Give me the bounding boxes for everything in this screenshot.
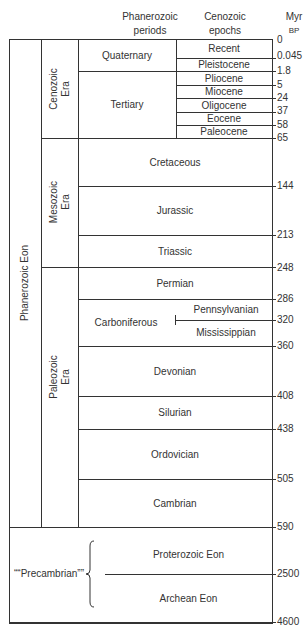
tick-label: 286	[277, 293, 294, 305]
eon-proterozoic: Proterozoic Eon	[105, 540, 272, 568]
period-tertiary: Tertiary	[78, 71, 176, 138]
era-paleozoic-line2: Era	[60, 337, 72, 417]
header-units-line1: Myr	[282, 10, 306, 24]
tick-label: 24	[277, 92, 288, 104]
epoch-pleistocene: Pleistocene	[176, 58, 272, 71]
tick-label: 320	[277, 314, 294, 326]
era-mesozoic-line1: Mesozoic	[48, 162, 60, 242]
tick-label: 1.8	[277, 65, 291, 77]
subperiod-pennsylvanian: Pennsylvanian	[180, 301, 272, 318]
era-mesozoic-line2: Era	[60, 162, 72, 242]
epoch-pliocene: Pliocene	[176, 71, 272, 85]
era-cenozoic: Cenozoic Era	[48, 49, 72, 129]
era-cenozoic-line1: Cenozoic	[48, 49, 60, 129]
header-epochs-line1: Cenozoic	[176, 10, 274, 24]
line-320	[175, 320, 276, 321]
line-4600	[9, 622, 276, 623]
tick-label: 408	[277, 390, 294, 402]
period-cretaceous: Cretaceous	[78, 138, 272, 186]
line-2500	[105, 574, 276, 575]
line-590	[9, 527, 276, 528]
tick-label: 58	[277, 119, 288, 131]
tick-label: 144	[277, 180, 294, 192]
tick-label: 4600	[277, 616, 299, 628]
carboniferous-tick	[175, 315, 176, 325]
eon-column-divider	[41, 39, 42, 527]
eon-phanerozoic: Phanerozoic Eon	[19, 233, 31, 333]
epoch-oligocene: Oligocene	[176, 98, 272, 112]
tick-label: 5	[277, 79, 283, 91]
epoch-eocene: Eocene	[176, 112, 272, 125]
tick-label: 65	[277, 132, 288, 144]
era-mesozoic: Mesozoic Era	[48, 162, 72, 242]
period-carboniferous: Carboniferous	[78, 299, 174, 346]
period-triassic: Triassic	[78, 235, 272, 267]
epoch-recent: Recent	[176, 39, 272, 58]
tick-label: 2500	[277, 568, 299, 580]
era-paleozoic: Paleozoic Era	[48, 337, 72, 417]
tick-label: 0.045	[277, 50, 302, 62]
time-axis	[272, 39, 273, 623]
period-jurassic: Jurassic	[78, 186, 272, 235]
tick-label: 360	[277, 340, 294, 352]
header-units-line2: BP	[282, 24, 306, 38]
epoch-miocene: Miocene	[176, 85, 272, 98]
period-devonian: Devonian	[78, 346, 272, 396]
brace-icon	[82, 540, 96, 608]
era-paleozoic-line1: Paleozoic	[48, 337, 60, 417]
epoch-paleocene: Paleocene	[176, 125, 272, 138]
eon-precambrian: ““Precambrian””	[14, 567, 84, 581]
eon-archean: Archean Eon	[105, 584, 272, 612]
tick-label: 0	[277, 34, 283, 46]
period-permian: Permian	[78, 267, 272, 299]
tick-label: 37	[277, 105, 288, 117]
period-cambrian: Cambrian	[78, 479, 272, 527]
tick-label: 438	[277, 423, 294, 435]
period-silurian: Silurian	[78, 396, 272, 429]
tick-label: 248	[277, 262, 294, 274]
header-units: Myr BP	[282, 10, 306, 38]
tick-label: 505	[277, 473, 294, 485]
period-ordovician: Ordovician	[78, 429, 272, 479]
header-epochs: Cenozoic epochs	[176, 10, 274, 38]
tick-label: 213	[277, 229, 294, 241]
tick-label: 590	[277, 521, 294, 533]
header-epochs-line2: epochs	[176, 24, 274, 38]
era-cenozoic-line2: Era	[60, 49, 72, 129]
subperiod-mississippian: Mississippian	[180, 323, 272, 341]
period-quaternary: Quaternary	[78, 39, 176, 71]
